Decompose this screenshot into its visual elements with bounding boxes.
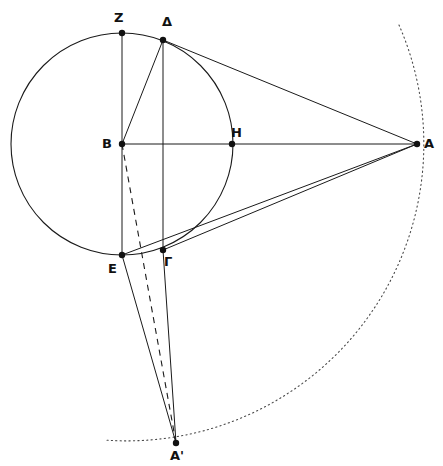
- vertex-dot-A: [414, 141, 420, 147]
- vertex-label-A: A: [424, 137, 434, 150]
- vertex-label-H: H: [231, 126, 242, 139]
- vertex-label-A-prime: A': [170, 449, 184, 462]
- segment-EAprime: [122, 255, 176, 443]
- vertex-label-delta: Δ: [162, 15, 172, 28]
- vertex-label-E: E: [108, 262, 117, 275]
- vertex-dot-G: [160, 247, 166, 253]
- vertex-dot-Z: [119, 30, 125, 36]
- segment-GA: [163, 144, 417, 250]
- vertex-label-B: B: [102, 137, 112, 150]
- geometry-figure: Z Δ B H A E Γ A': [0, 0, 443, 466]
- segment-EA: [122, 144, 417, 255]
- segments-group: [122, 33, 417, 443]
- outer-dotted-arc: [104, 25, 424, 441]
- vertex-label-gamma: Γ: [164, 255, 172, 268]
- vertex-dot-H: [229, 141, 235, 147]
- vertex-dot-D: [160, 37, 166, 43]
- vertex-dot-Ap: [173, 440, 179, 446]
- segment-BD: [122, 40, 163, 144]
- segment-GAprime: [163, 250, 176, 443]
- geometry-canvas: [0, 0, 443, 466]
- segment-BAprime-dashed: [122, 144, 176, 443]
- vertices-group: [119, 30, 420, 446]
- vertex-label-Z: Z: [114, 11, 123, 24]
- vertex-dot-E: [119, 252, 125, 258]
- vertex-dot-B: [119, 141, 125, 147]
- segment-DA: [163, 40, 417, 144]
